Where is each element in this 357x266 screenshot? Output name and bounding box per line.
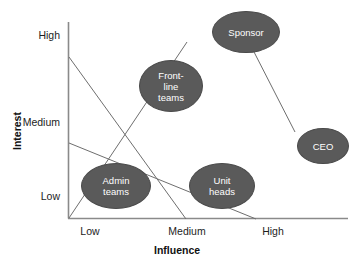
node-unit-heads[interactable]: Unit heads [189,163,255,209]
node-sponsor-label: Sponsor [226,27,265,38]
x-tick-label-high: High [250,226,296,237]
node-ceo[interactable]: CEO [297,128,349,164]
x-tick-label-medium: Medium [160,226,214,237]
x-axis-title: Influence [154,245,200,256]
node-admin-teams-label: Admin teams [101,175,132,197]
node-front-line-teams[interactable]: Front- line teams [139,60,203,112]
node-front-line-teams-label: Front- line teams [156,70,186,103]
node-sponsor[interactable]: Sponsor [212,11,280,53]
y-tick-label-high: High [16,30,60,41]
node-admin-teams[interactable]: Admin teams [81,163,151,209]
ascending-diagonal-upper-segment [253,50,295,132]
x-tick-label-low: Low [68,226,112,237]
node-unit-heads-label: Unit heads [207,175,237,197]
y-tick-label-low: Low [16,191,60,202]
node-ceo-label: CEO [311,141,336,152]
stakeholder-matrix-chart: High Medium Low Low Medium High Interest… [0,0,357,266]
y-axis-title: Interest [12,112,23,150]
